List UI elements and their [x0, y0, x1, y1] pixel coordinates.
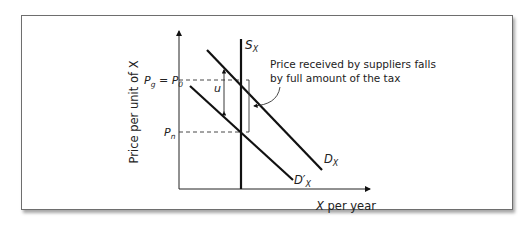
price-label-pg-p0: Pg = P0 — [144, 74, 183, 89]
demand-shifted-label: D′X — [294, 173, 311, 189]
tax-label: u — [214, 82, 221, 95]
annotation-line-1: Price received by suppliers falls — [270, 58, 436, 70]
price-label-pn: Pn — [164, 126, 176, 141]
tax-incidence-diagram: Price per unit of X X per year SX DX D′X… — [0, 0, 532, 236]
demand-label: DX — [324, 152, 339, 168]
annotation-line-2: by full amount of the tax — [270, 72, 400, 84]
y-axis-label: Price per unit of X — [127, 60, 141, 163]
tax-bracket — [246, 80, 249, 132]
x-axis-label: X per year — [315, 199, 376, 213]
supply-label: SX — [245, 38, 259, 54]
